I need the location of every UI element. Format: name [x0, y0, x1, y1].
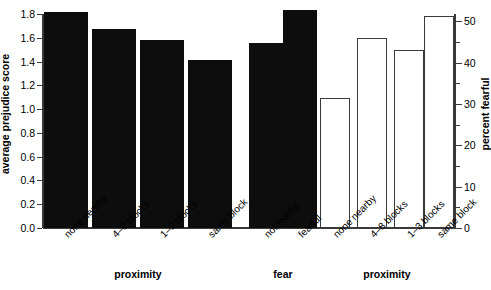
right-minor-tick-mark	[456, 166, 460, 167]
right-tick-label: 50	[464, 16, 476, 27]
left-axis-title-text: average prejudice score	[0, 54, 11, 174]
left-tick-mark	[37, 204, 42, 205]
right-tick-mark	[456, 63, 462, 64]
left-tick-mark	[37, 157, 42, 158]
left-tick-label: 0.0	[20, 223, 35, 234]
left-tick-mark	[37, 85, 42, 86]
left-tick-mark	[37, 133, 42, 134]
bar	[249, 43, 283, 228]
bar	[44, 12, 88, 228]
left-tick-label: 1.2	[20, 80, 35, 91]
left-tick-label: 0.2	[20, 199, 35, 210]
right-tick-label: 0	[464, 223, 470, 234]
right-tick-label: 30	[464, 99, 476, 110]
right-tick-mark	[456, 228, 462, 229]
right-minor-tick-mark	[456, 42, 460, 43]
bar	[320, 98, 350, 228]
right-axis-title: percent fearful	[478, 0, 491, 228]
right-axis-title-text: percent fearful	[479, 78, 491, 151]
right-tick-label: 10	[464, 182, 476, 193]
left-tick-label: 1.8	[20, 9, 35, 20]
chart-figure: 0.00.20.40.60.81.01.21.41.61.8 010203040…	[0, 0, 491, 290]
left-tick-mark	[37, 62, 42, 63]
left-tick-mark	[37, 14, 42, 15]
left-tick-label: 0.6	[20, 152, 35, 163]
bar	[424, 16, 454, 228]
left-tick-label: 1.0	[20, 104, 35, 115]
right-tick-label: 20	[464, 140, 476, 151]
left-tick-label: 1.6	[20, 33, 35, 44]
left-tick-mark	[37, 180, 42, 181]
right-tick-label: 40	[464, 58, 476, 69]
left-tick-label: 0.4	[20, 175, 35, 186]
left-tick-label: 0.8	[20, 128, 35, 139]
group-label: proximity	[114, 268, 161, 280]
bar	[283, 10, 317, 228]
bar	[140, 40, 184, 228]
right-tick-mark	[456, 104, 462, 105]
right-tick-mark	[456, 145, 462, 146]
right-tick-mark	[456, 21, 462, 22]
group-label: fear	[273, 268, 292, 280]
left-tick-label: 1.4	[20, 57, 35, 68]
left-axis-title: average prejudice score	[0, 0, 12, 228]
left-tick-mark	[37, 228, 42, 229]
right-tick-mark	[456, 187, 462, 188]
right-minor-tick-mark	[456, 83, 460, 84]
left-tick-mark	[37, 38, 42, 39]
right-minor-tick-mark	[456, 125, 460, 126]
left-tick-mark	[37, 109, 42, 110]
group-label: proximity	[363, 268, 410, 280]
